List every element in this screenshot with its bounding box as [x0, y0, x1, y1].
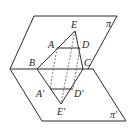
upper-triangle — [37, 31, 83, 69]
two-planes-diagram: E A D B C A' D' E' π π' — [0, 0, 135, 136]
label-D-prime: D' — [73, 88, 84, 99]
label-E: E — [70, 19, 77, 30]
lower-plane — [10, 69, 126, 121]
label-A: A — [47, 39, 55, 50]
label-B: B — [29, 57, 35, 68]
label-pi-prime: π' — [110, 109, 118, 120]
label-D: D — [81, 39, 90, 50]
label-C: C — [84, 57, 91, 68]
label-A-prime: A' — [35, 88, 45, 99]
label-E-prime: E' — [56, 106, 66, 117]
